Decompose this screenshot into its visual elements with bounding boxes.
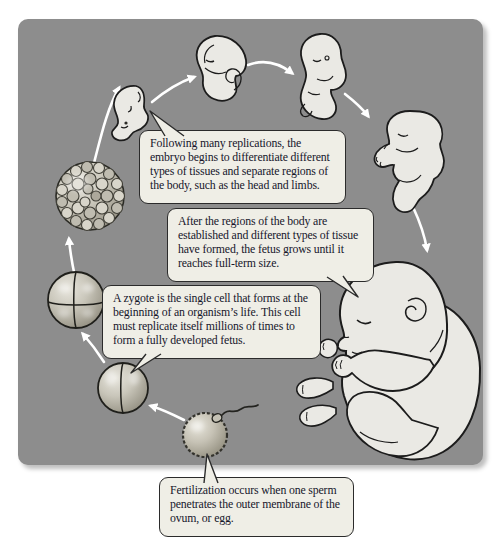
caption-fetal-growth-text: After the regions of the body are establ…	[178, 214, 358, 270]
morula-cell-ball-icon	[56, 162, 125, 231]
caption-fertilization: Fertilization occurs when one sperm pene…	[159, 477, 354, 537]
caption-zygote-text: A zygote is the single cell that forms a…	[113, 291, 308, 347]
caption-differentiation: Following many replications, the embryo …	[139, 130, 346, 204]
four-cell-stage-icon	[48, 272, 104, 328]
caption-zygote: A zygote is the single cell that forms a…	[102, 285, 321, 359]
development-cycle-diagram: Following many replications, the embryo …	[0, 0, 501, 547]
caption-fertilization-text: Fertilization occurs when one sperm pene…	[170, 483, 340, 525]
two-cell-zygote-icon	[98, 363, 148, 413]
caption-fetal-growth: After the regions of the body are establ…	[167, 208, 374, 282]
caption-differentiation-text: Following many replications, the embryo …	[150, 136, 330, 192]
